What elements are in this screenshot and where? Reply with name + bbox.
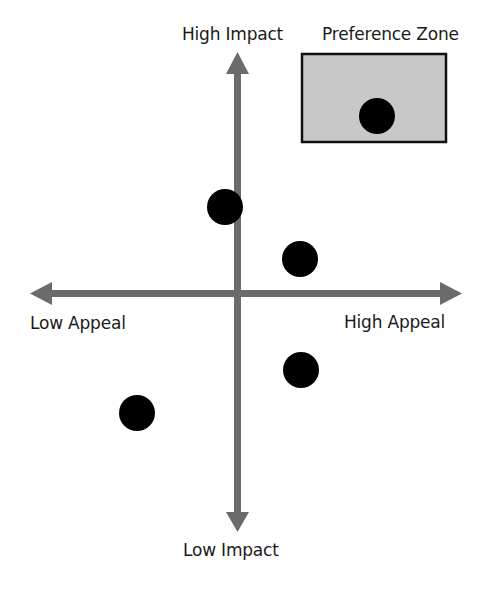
data-point [207, 189, 243, 225]
data-point [283, 352, 319, 388]
data-points [119, 98, 395, 431]
data-point [119, 395, 155, 431]
data-point [359, 98, 395, 134]
high-appeal-label: High Appeal [344, 312, 445, 332]
low-impact-label: Low Impact [183, 540, 279, 560]
preference-zone-label: Preference Zone [322, 24, 459, 44]
high-impact-label: High Impact [182, 24, 283, 44]
horizontal-axis [30, 282, 462, 305]
low-appeal-label: Low Appeal [30, 313, 126, 333]
data-point [282, 241, 318, 277]
quadrant-diagram [0, 0, 504, 591]
